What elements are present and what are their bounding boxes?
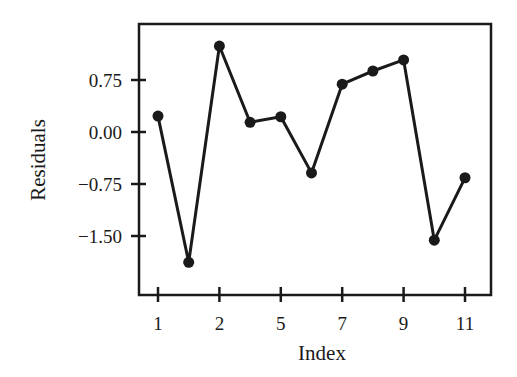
residuals-line [158,46,465,262]
x-tick-label: 7 [337,313,347,334]
y-axis: 0.750.00−0.75−1.50 [78,70,146,247]
data-point [337,79,348,90]
y-tick-label: −1.50 [78,226,122,247]
data-point [275,111,286,122]
data-point [245,117,256,128]
x-tick-label: 5 [276,313,286,334]
data-markers [153,41,471,268]
x-tick-label: 9 [399,313,409,334]
x-axis-label: Index [298,341,346,365]
y-tick-label: 0.75 [89,70,122,91]
y-tick-label: 0.00 [89,122,122,143]
y-tick-label: −0.75 [78,174,122,195]
data-point [153,111,164,122]
data-point [398,54,409,65]
data-point [306,167,317,178]
x-tick-label: 2 [215,313,225,334]
data-point [367,65,378,76]
data-point [460,172,471,183]
x-tick-label: 1 [153,313,163,334]
y-axis-label: Residuals [26,119,50,201]
data-point [429,235,440,246]
data-point [183,257,194,268]
x-tick-label: 11 [456,313,474,334]
chart-canvas: 0.750.00−0.75−1.50 1257911 Index Residua… [0,0,517,377]
data-point [214,41,225,52]
